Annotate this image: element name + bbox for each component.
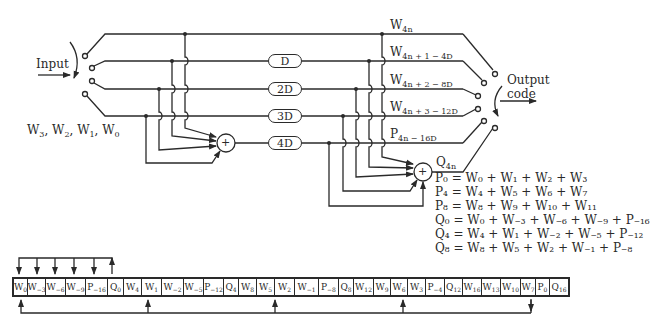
register-cell-sub: −2 <box>173 286 182 293</box>
register-cell: Q16 <box>550 279 568 295</box>
register-cell-base: W <box>145 282 154 292</box>
register-cell-base: W <box>163 282 172 292</box>
register-cell: W−5 <box>184 279 204 295</box>
register-cell: W1 <box>142 279 162 295</box>
register-cell-base: W <box>464 282 473 292</box>
register-cell-base: W <box>14 282 23 292</box>
line-label-p4n: P4n − 16D <box>390 128 437 140</box>
register-cell-sub: 8 <box>250 286 254 293</box>
register-cell-sub: 1 <box>154 286 158 293</box>
register-cell: Q8 <box>339 279 354 295</box>
left-adder-symbol: + <box>221 137 230 148</box>
equation-q4: Q₄ = W₄ + W₁ + W₋₂ + W₋₅ + P₋₁₂ <box>435 228 643 240</box>
register-cell-base: W <box>521 282 530 292</box>
register-cell-base: W <box>355 282 364 292</box>
register-cell-base: W <box>375 282 384 292</box>
register-cell: W6 <box>391 279 408 295</box>
register-cell-base: W <box>392 282 401 292</box>
register-cell-sub: −4 <box>434 286 443 293</box>
line-label-w4n1: W4n + 1 − 4D <box>390 46 453 58</box>
register-cell-base: Q <box>110 282 117 292</box>
register-cell-base: W <box>46 282 55 292</box>
register-cell-base: W <box>278 282 287 292</box>
register-cell-sub: 16 <box>559 286 567 293</box>
register-cell-sub: 3 <box>419 286 423 293</box>
register-cell: P0 <box>536 279 550 295</box>
register-cell-sub: 12 <box>453 286 461 293</box>
register-cell-base: W <box>184 282 193 292</box>
register-cell: P−12 <box>204 279 224 295</box>
register-cell-sub: 13 <box>492 286 500 293</box>
register-cell: W−3 <box>28 279 46 295</box>
delay-box-2d: 2D <box>268 82 302 96</box>
register-cell-sub: 16 <box>473 286 481 293</box>
register-cell-sub: 0 <box>23 286 27 293</box>
register-cell-base: Q <box>446 282 453 292</box>
line-label-q4n: Q4n <box>436 156 456 168</box>
register-cell: Q0 <box>108 279 124 295</box>
register-cell-sub: 6 <box>402 286 406 293</box>
register-cell-sub: 12 <box>364 286 372 293</box>
shift-register: W0W−3W−6W−9P−16Q0W4W1W−2W−5P−12Q4W8W5W2W… <box>12 277 570 297</box>
register-cell: W12 <box>354 279 374 295</box>
register-cell: W−6 <box>46 279 66 295</box>
equation-q8: Q₈ = W₈ + W₅ + W₂ + W₋₁ + P₋₈ <box>435 242 632 254</box>
delay-box-d: D <box>268 54 302 68</box>
register-cell-sub: 10 <box>511 286 519 293</box>
register-cell: W3 <box>408 279 426 295</box>
register-cell-sub: 4 <box>135 286 139 293</box>
register-cell-sub: −5 <box>194 286 203 293</box>
register-cell-sub: 4 <box>233 286 237 293</box>
register-cell: Q12 <box>445 279 463 295</box>
line-label-w4n2: W4n + 2 − 8D <box>390 74 453 86</box>
register-cell-sub: −9 <box>76 286 85 293</box>
delay-box-4d: 4D <box>268 136 302 150</box>
register-cell-base: W <box>502 282 511 292</box>
register-cell-base: Q <box>340 282 347 292</box>
register-cell-sub: 8 <box>348 286 352 293</box>
register-cell-base: W <box>126 282 135 292</box>
register-cell-sub: −1 <box>307 286 316 293</box>
register-cell-base: W <box>66 282 75 292</box>
register-cell: W4 <box>124 279 142 295</box>
register-cell: W7 <box>521 279 536 295</box>
register-cell: P−4 <box>426 279 445 295</box>
output-label-line1: Output <box>507 74 550 86</box>
equation-q0: Q₀ = W₀ + W₋₃ + W₋₆ + W₋₉ + P₋₁₆ <box>435 214 650 226</box>
line-label-w4n3: W4n + 3 − 12D <box>390 101 458 113</box>
input-label: Input <box>36 58 69 70</box>
register-cell-sub: 5 <box>268 286 272 293</box>
register-cell-sub: 9 <box>385 286 389 293</box>
output-label-line2: code <box>507 88 536 100</box>
register-cell: P−8 <box>319 279 339 295</box>
register-cell: W−9 <box>66 279 86 295</box>
input-words-label: W3, W2, W1, W0 <box>27 124 120 136</box>
register-cell-base: W <box>241 282 250 292</box>
register-cell: Q4 <box>224 279 239 295</box>
register-cell: W13 <box>482 279 501 295</box>
register-cell: W0 <box>14 279 28 295</box>
register-cell-base: W <box>297 282 306 292</box>
register-cell: W5 <box>257 279 275 295</box>
right-adder-symbol: + <box>418 166 427 177</box>
register-cell-base: W <box>483 282 492 292</box>
register-cell: W−2 <box>162 279 184 295</box>
register-cell-base: W <box>410 282 419 292</box>
register-cell: P−16 <box>86 279 108 295</box>
equation-p0: P₀ = W₀ + W₁ + W₂ + W₃ <box>435 172 587 184</box>
register-cell-base: Q <box>551 282 558 292</box>
equation-p4: P₄ = W₄ + W₅ + W₆ + W₇ <box>435 186 587 198</box>
register-cell: W9 <box>374 279 391 295</box>
register-cell-sub: −6 <box>56 286 65 293</box>
register-cell-sub: −12 <box>210 286 223 293</box>
line-label-w4n: W4n <box>390 19 413 31</box>
register-cell-sub: 0 <box>544 286 548 293</box>
delay-box-3d: 3D <box>268 109 302 123</box>
register-cell: W2 <box>275 279 295 295</box>
register-cell-base: Q <box>225 282 232 292</box>
register-cell-sub: −8 <box>327 286 336 293</box>
register-cell-sub: 2 <box>287 286 291 293</box>
register-cell-sub: 0 <box>117 286 121 293</box>
register-cell-base: W <box>259 282 268 292</box>
register-cell-sub: 7 <box>531 286 535 293</box>
